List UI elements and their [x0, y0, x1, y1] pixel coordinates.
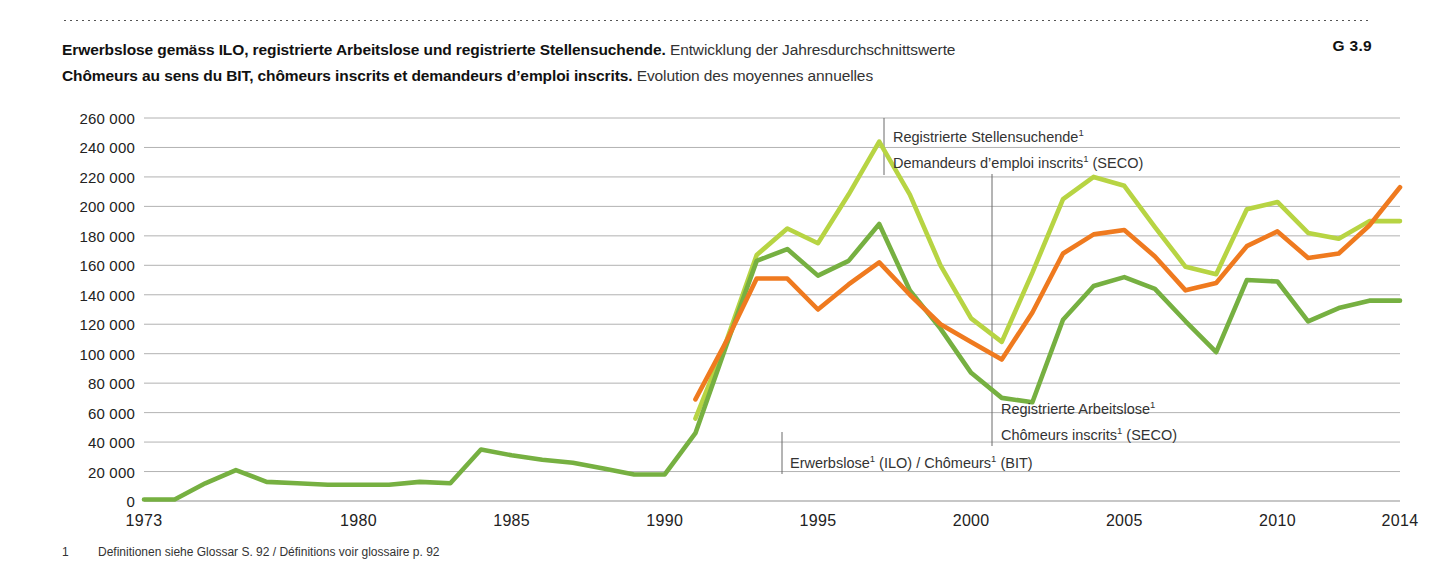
y-axis-tick-label: 220 000	[0, 168, 135, 185]
annotation-erwerbslose-de: Erwerbslose	[790, 455, 870, 471]
annotation-stellensuchende-de: Registrierte Stellensuchende	[893, 129, 1078, 145]
annotation-stellensuchende-source: (SECO)	[1088, 155, 1143, 171]
x-axis-tick-label: 2014	[1382, 512, 1419, 530]
annotation-arbeitslose-line2: Chômeurs inscrits1 (SECO)	[1001, 420, 1177, 446]
annotation-arbeitslose-fr: Chômeurs inscrits	[1001, 427, 1117, 443]
x-axis-tick-label: 2010	[1259, 512, 1296, 530]
annotation-arbeitslose-source: (SECO)	[1122, 427, 1177, 443]
footnote-ref: 1	[1150, 399, 1155, 410]
footnote-ref: 1	[1078, 127, 1083, 138]
y-axis-tick-label: 140 000	[0, 286, 135, 303]
annotation-stellensuchende-line2: Demandeurs d’emploi inscrits1 (SECO)	[893, 148, 1143, 174]
x-axis-tick-label: 2000	[953, 512, 990, 530]
y-axis-tick-label: 60 000	[0, 404, 135, 421]
x-axis-tick-label: 1995	[800, 512, 837, 530]
annotation-erwerbslose-end: (BIT)	[996, 455, 1032, 471]
x-axis-tick-label: 1980	[340, 512, 377, 530]
chart-plot-area: 020 00040 00060 00080 000100 000120 0001…	[0, 0, 1429, 574]
annotation-stellensuchende: Registrierte Stellensuchende1 Demandeurs…	[893, 122, 1143, 174]
annotation-arbeitslose-de: Registrierte Arbeitslose	[1001, 401, 1150, 417]
y-axis-tick-label: 0	[0, 493, 135, 510]
annotation-stellensuchende-line1: Registrierte Stellensuchende1	[893, 122, 1143, 148]
footnote: 1Definitionen siehe Glossar S. 92 / Défi…	[62, 545, 440, 559]
y-axis-tick-label: 80 000	[0, 375, 135, 392]
x-axis-tick-label: 1990	[646, 512, 683, 530]
y-axis-tick-label: 160 000	[0, 257, 135, 274]
footnote-marker: 1	[62, 545, 98, 559]
y-axis-tick-label: 100 000	[0, 345, 135, 362]
y-axis-tick-label: 240 000	[0, 139, 135, 156]
y-axis-tick-label: 200 000	[0, 198, 135, 215]
x-axis-tick-label: 2005	[1106, 512, 1143, 530]
y-axis-tick-label: 180 000	[0, 227, 135, 244]
annotation-arbeitslose: Registrierte Arbeitslose1 Chômeurs inscr…	[1001, 394, 1177, 446]
y-axis-tick-label: 20 000	[0, 463, 135, 480]
y-axis-tick-label: 40 000	[0, 434, 135, 451]
y-axis-tick-label: 260 000	[0, 110, 135, 127]
footnote-text: Definitionen siehe Glossar S. 92 / Défin…	[98, 545, 440, 559]
annotation-erwerbslose: Erwerbslose1 (ILO) / Chômeurs1 (BIT)	[790, 448, 1033, 474]
chart-svg	[0, 0, 1429, 574]
figure-page: Erwerbslose gemäss ILO, registrierte Arb…	[0, 0, 1429, 574]
x-axis-tick-label: 1985	[493, 512, 530, 530]
x-axis-tick-label: 1973	[126, 512, 163, 530]
annotation-stellensuchende-fr: Demandeurs d’emploi inscrits	[893, 155, 1083, 171]
annotation-arbeitslose-line1: Registrierte Arbeitslose1	[1001, 394, 1177, 420]
annotation-erwerbslose-mid: (ILO) / Chômeurs	[875, 455, 991, 471]
y-axis-tick-label: 120 000	[0, 316, 135, 333]
